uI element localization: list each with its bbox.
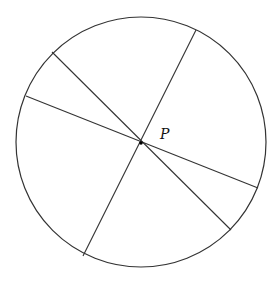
chord	[52, 52, 231, 230]
circle-diagram: P	[0, 0, 276, 281]
point-label: P	[159, 126, 170, 142]
point-p	[139, 141, 143, 145]
